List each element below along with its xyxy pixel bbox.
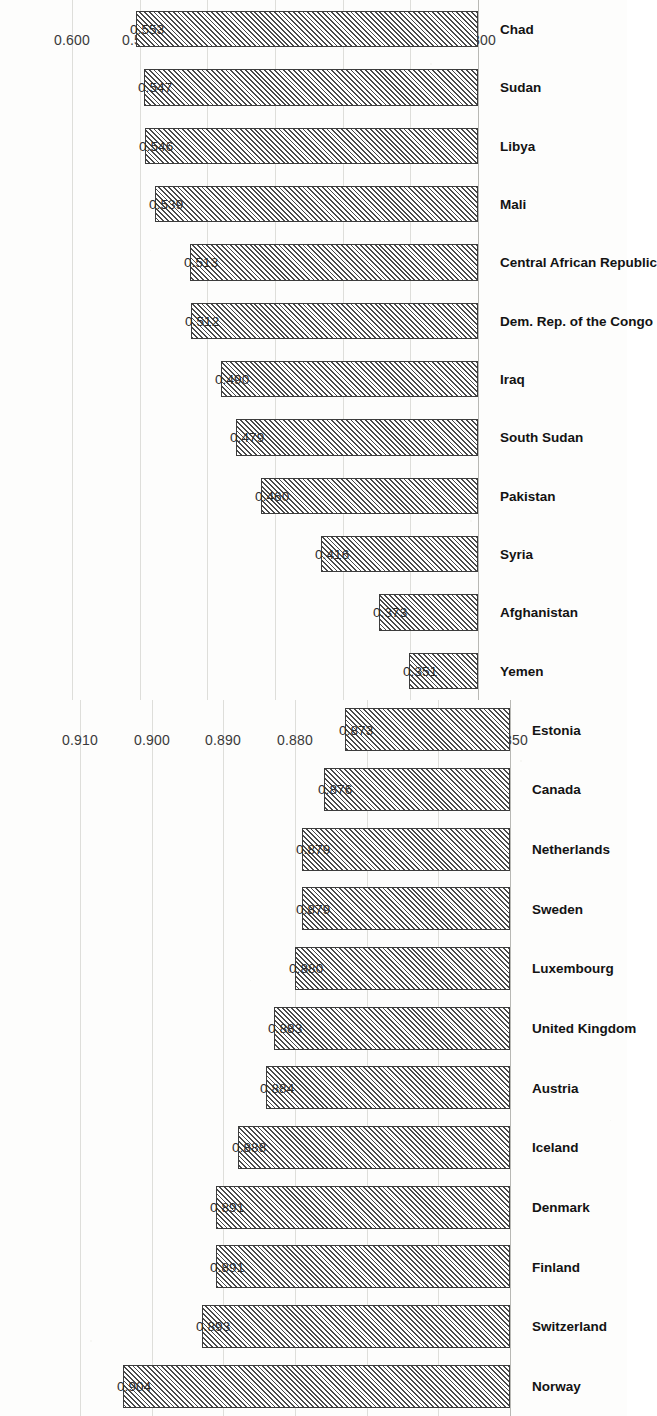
bar: [136, 11, 478, 47]
chart-high-hdi-rotated-canvas: 0.8500.8600.8700.8800.8900.9000.9100.904…: [0, 700, 627, 1416]
category-label: Sudan: [500, 80, 541, 95]
bar-value-label: 0.904: [117, 1379, 151, 1394]
category-label: United Kingdom: [532, 1021, 636, 1036]
gridline: [140, 0, 141, 700]
bar-value-label: 0.879: [296, 842, 330, 857]
category-label: Switzerland: [532, 1319, 607, 1334]
bar-value-label: 0.513: [184, 255, 218, 270]
chart-low-hdi-rotated-canvas: 0.3000.3500.4000.4500.5000.5500.6000.351…: [0, 0, 627, 700]
bar-value-label: 0.416: [315, 547, 349, 562]
scan-artifact: [90, 1340, 92, 1342]
chart-low-hdi: 0.3000.3500.4000.4500.5000.5500.6000.351…: [0, 0, 627, 700]
category-label: Afghanistan: [500, 605, 578, 620]
bar-value-label: 0.893: [196, 1319, 230, 1334]
bar: [191, 303, 478, 339]
bar-value-label: 0.884: [260, 1080, 294, 1095]
category-label: Iraq: [500, 372, 525, 387]
bar: [144, 69, 478, 105]
category-label: Luxembourg: [532, 961, 614, 976]
bar-value-label: 0.883: [268, 1021, 302, 1036]
bar: [274, 1007, 511, 1050]
category-label: Denmark: [532, 1200, 590, 1215]
bar-value-label: 0.876: [318, 782, 352, 797]
bar-value-label: 0.888: [232, 1140, 266, 1155]
category-label: Syria: [500, 547, 533, 562]
value-axis-tick-label: 0.910: [62, 732, 98, 748]
value-axis-tick-label: 0.880: [277, 732, 313, 748]
bar-value-label: 0.547: [138, 80, 172, 95]
bar: [302, 887, 510, 930]
bar: [302, 828, 510, 871]
category-label: Sweden: [532, 901, 583, 916]
category-label: Canada: [532, 782, 581, 797]
category-label: Mali: [500, 197, 526, 212]
scan-artifact: [150, 250, 151, 251]
bar: [221, 361, 478, 397]
category-label: Iceland: [532, 1140, 579, 1155]
category-label: Norway: [532, 1379, 581, 1394]
bar: [216, 1245, 510, 1288]
gridline: [72, 0, 73, 700]
value-axis-tick-label: 0.600: [54, 32, 90, 48]
bar-value-label: 0.512: [185, 313, 219, 328]
category-label: Yemen: [500, 663, 544, 678]
category-label: South Sudan: [500, 430, 583, 445]
scan-artifact: [300, 40, 302, 42]
bar: [155, 186, 478, 222]
chart-high-hdi: 0.8500.8600.8700.8800.8900.9000.9100.904…: [0, 700, 627, 1416]
scan-artifact: [250, 980, 251, 981]
gridline: [152, 700, 153, 1416]
chart-high-hdi-plot-area: 0.8500.8600.8700.8800.8900.9000.9100.904…: [0, 700, 627, 1416]
category-label: Dem. Rep. of the Congo: [500, 313, 653, 328]
gridline: [80, 700, 81, 1416]
bar-value-label: 0.891: [210, 1200, 244, 1215]
category-label: Central African Republic: [500, 255, 657, 270]
bar-value-label: 0.479: [230, 430, 264, 445]
category-label: Libya: [500, 138, 535, 153]
bar-value-label: 0.891: [210, 1259, 244, 1274]
scan-artifact: [430, 63, 432, 65]
bar-value-label: 0.880: [289, 961, 323, 976]
category-label: Estonia: [532, 722, 581, 737]
category-label: Netherlands: [532, 842, 610, 857]
bar-value-label: 0.490: [215, 372, 249, 387]
category-label: Austria: [532, 1080, 579, 1095]
bar-value-label: 0.373: [373, 605, 407, 620]
bar: [236, 419, 478, 455]
chart-low-hdi-plot-area: 0.3000.3500.4000.4500.5000.5500.6000.351…: [0, 0, 627, 700]
bar: [216, 1186, 510, 1229]
bar: [261, 478, 478, 514]
scan-artifact: [470, 520, 472, 522]
bar: [145, 128, 478, 164]
category-label: Pakistan: [500, 488, 556, 503]
bar-value-label: 0.460: [255, 488, 289, 503]
bar: [295, 947, 510, 990]
bar: [190, 244, 478, 280]
bar-value-label: 0.351: [403, 663, 437, 678]
bar: [238, 1126, 510, 1169]
scan-artifact: [610, 1120, 611, 1121]
scan-artifact: [520, 760, 522, 762]
category-label: Chad: [500, 22, 534, 37]
value-axis-tick-label: 0.890: [205, 732, 241, 748]
bar: [202, 1305, 510, 1348]
value-axis-tick-label: 0.900: [134, 732, 170, 748]
bar-value-label: 0.879: [296, 901, 330, 916]
bar: [123, 1365, 510, 1408]
bar-value-label: 0.539: [149, 197, 183, 212]
value-axis-baseline: [510, 700, 511, 1416]
bar-value-label: 0.546: [139, 138, 173, 153]
bar: [266, 1066, 510, 1109]
bar-value-label: 0.873: [339, 722, 373, 737]
bar-value-label: 0.553: [130, 22, 164, 37]
category-label: Finland: [532, 1259, 580, 1274]
value-axis-baseline: [478, 0, 479, 700]
